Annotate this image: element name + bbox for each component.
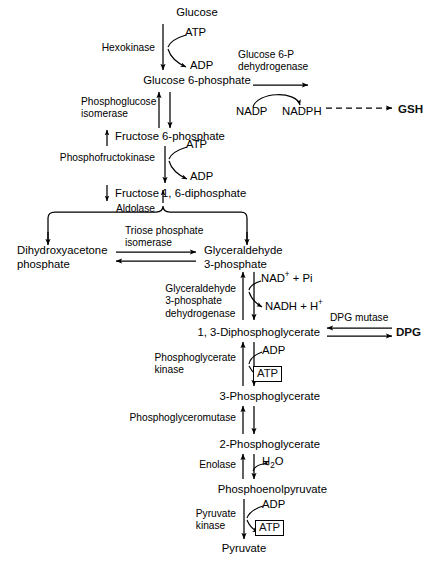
g6pd-line2: dehydrogenase xyxy=(238,61,308,73)
pgk-line2: kinase xyxy=(154,364,236,376)
g6pd-line1: Glucose 6-P xyxy=(238,49,308,61)
enzyme-aldolase: Aldolase xyxy=(116,203,155,214)
enzyme-glucose-6-p-dehydrogenase: Glucose 6-P dehydrogenase xyxy=(238,49,308,74)
gapdh-line3: dehydrogenase xyxy=(165,308,236,320)
metabolite-fructose-6-phosphate: Fructose 6-phosphate xyxy=(115,130,225,143)
metabolite-1-3-diphosphoglycerate: 1, 3-Diphosphoglycerate xyxy=(198,326,320,339)
cofactor-h2o: H2O xyxy=(262,455,284,468)
cofactor-adp-phosphoglycerate-kinase: ADP xyxy=(262,344,285,357)
cofactor-nadh-h: NADH + H+ xyxy=(265,300,323,313)
metabolite-glucose: Glucose xyxy=(176,6,217,19)
cofactor-adp-hexokinase: ADP xyxy=(190,59,213,72)
curve-atp-pfk xyxy=(169,147,187,159)
gapdh-line2: 3-phosphate xyxy=(165,295,236,307)
metabolite-glucose-6-phosphate: Glucose 6-phosphate xyxy=(143,74,250,87)
dhap-line1: Dihydroxyacetone xyxy=(17,244,107,258)
cofactor-adp-phosphofructokinase: ADP xyxy=(190,170,213,183)
enzyme-phosphoglyceromutase: Phosphoglyceromutase xyxy=(130,412,236,423)
tpi-line2: isomerase xyxy=(125,237,203,249)
cofactor-atp-pyruvate-kinase-box: ATP xyxy=(255,520,284,536)
cofactor-atp-hexokinase: ATP xyxy=(185,26,206,39)
g3p-line1: Glyceraldehyde xyxy=(204,244,283,258)
cofactor-atp-phosphoglycerate-kinase-box: ATP xyxy=(253,366,282,382)
metabolite-3-phosphoglycerate: 3-Phosphoglycerate xyxy=(220,390,320,403)
pgi-line2: isomerase xyxy=(81,108,156,120)
metabolite-phosphoenolpyruvate: Phosphoenolpyruvate xyxy=(218,483,327,496)
dhap-line2: phosphate xyxy=(17,258,107,272)
enzyme-phosphoglycerate-kinase: Phosphoglycerate kinase xyxy=(154,352,236,377)
cofactor-nadp: NADP xyxy=(236,105,267,118)
tpi-line1: Triose phosphate xyxy=(125,225,203,237)
pgk-line1: Phosphoglycerate xyxy=(154,352,236,364)
metabolite-pyruvate: Pyruvate xyxy=(222,542,267,555)
cofactor-nadph: NADPH xyxy=(282,105,322,118)
enzyme-pyruvate-kinase: Pyruvate kinase xyxy=(196,508,236,533)
curve-adp-hexokinase xyxy=(168,49,186,67)
pk-line2: kinase xyxy=(196,520,236,532)
curve-adp-pfk xyxy=(169,161,187,179)
pgi-line1: Phosphoglucose xyxy=(81,96,156,108)
enzyme-dpg-mutase: DPG mutase xyxy=(330,312,388,323)
pk-line1: Pyruvate xyxy=(196,508,236,520)
metabolite-dihydroxyacetone-phosphate: Dihydroxyacetone phosphate xyxy=(17,244,107,272)
metabolite-glyceraldehyde-3-phosphate: Glyceraldehyde 3-phosphate xyxy=(204,244,283,272)
metabolite-dpg: DPG xyxy=(396,325,421,338)
enzyme-glyceraldehyde-3-phosphate-dehydrogenase: Glyceraldehyde 3-phosphate dehydrogenase xyxy=(165,283,236,320)
curve-atp-hexokinase xyxy=(168,35,186,47)
enzyme-phosphofructokinase: Phosphofructokinase xyxy=(60,152,155,163)
curve-adp-pgk xyxy=(249,352,262,364)
cofactor-atp-phosphofructokinase: ATP xyxy=(186,138,207,151)
metabolite-gsh: GSH xyxy=(398,102,423,115)
metabolite-2-phosphoglycerate: 2-Phosphoglycerate xyxy=(220,438,320,451)
cofactor-nad-pi: NAD+ + Pi xyxy=(261,272,313,285)
curve-adp-pk xyxy=(247,506,263,518)
enzyme-enolase: Enolase xyxy=(199,459,236,470)
enzyme-triose-phosphate-isomerase: Triose phosphate isomerase xyxy=(125,225,203,250)
enzyme-hexokinase: Hexokinase xyxy=(102,42,155,53)
enzyme-phosphoglucose-isomerase: Phosphoglucose isomerase xyxy=(81,96,156,121)
g3p-line2: 3-phosphate xyxy=(204,258,283,272)
curve-nadh-out xyxy=(249,292,262,307)
cofactor-adp-pyruvate-kinase: ADP xyxy=(262,498,285,511)
gapdh-line1: Glyceraldehyde xyxy=(165,283,236,295)
curve-nad-in xyxy=(249,281,261,290)
metabolite-fructose-1-6-diphosphate: Fructose 1, 6-diphosphate xyxy=(115,187,246,200)
